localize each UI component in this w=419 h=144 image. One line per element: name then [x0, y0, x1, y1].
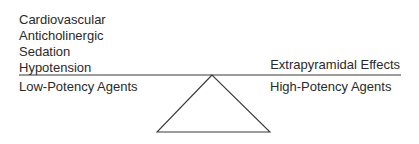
effect-anticholinergic: Anticholinergic — [19, 28, 106, 44]
effect-extrapyramidal: Extrapyramidal Effects — [270, 57, 400, 73]
effect-sedation: Sedation — [19, 44, 106, 60]
effect-hypotension: Hypotension — [19, 60, 106, 76]
low-potency-effects-list: Cardiovascular Anticholinergic Sedation … — [19, 12, 106, 76]
fulcrum-triangle — [157, 75, 270, 132]
effect-cardiovascular: Cardiovascular — [19, 12, 106, 28]
low-potency-label: Low-Potency Agents — [19, 79, 138, 95]
high-potency-label: High-Potency Agents — [270, 79, 391, 95]
